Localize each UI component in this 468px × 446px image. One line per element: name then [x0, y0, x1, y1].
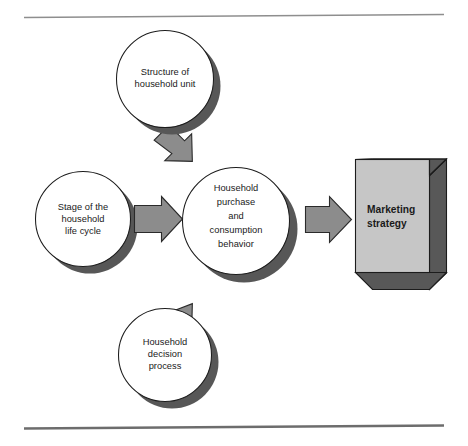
center-label-line-5: behavior [218, 239, 254, 249]
marketing-box-top-left-edge [356, 159, 373, 160]
marketing-label-line-2: strategy [367, 218, 407, 229]
figure-container: Structure of household unit Stage of the… [0, 0, 468, 446]
decision-label-line-1: Household [143, 337, 188, 347]
node-household-decision-process: Household decision process [119, 309, 219, 409]
stage-label-line-2: household [61, 214, 104, 224]
node-stage-of-the-household-life-cycle: Stage of the household life cycle [36, 172, 138, 274]
decision-label-line-3: process [149, 361, 182, 371]
center-label-line-2: purchase [217, 197, 255, 207]
node-marketing-strategy: Marketing strategy [356, 159, 447, 290]
center-label-line-3: and [228, 211, 244, 221]
arrow-stage-to-center [135, 197, 183, 242]
flow-diagram: Structure of household unit Stage of the… [0, 0, 468, 446]
structure-label-line-2: household unit [135, 79, 196, 89]
bottom-rule [24, 426, 444, 429]
structure-label-line-1: Structure of [141, 67, 190, 77]
marketing-box-front-face [356, 160, 430, 273]
stage-label-line-3: life cycle [65, 226, 101, 236]
decision-label-line-2: decision [148, 349, 182, 359]
center-label-line-4: consumption [210, 225, 263, 235]
center-label-line-1: Household [214, 183, 259, 193]
marketing-box-side-face [430, 159, 447, 290]
marketing-label-line-1: Marketing [367, 204, 415, 215]
top-rule [24, 15, 444, 18]
node-household-purchase-and-consumption-behavior: Household purchase and consumption behav… [183, 168, 298, 283]
arrow-center-to-outcome [306, 197, 352, 243]
stage-label-line-1: Stage of the [58, 202, 108, 212]
node-structure-of-household-unit: Structure of household unit [117, 31, 221, 135]
